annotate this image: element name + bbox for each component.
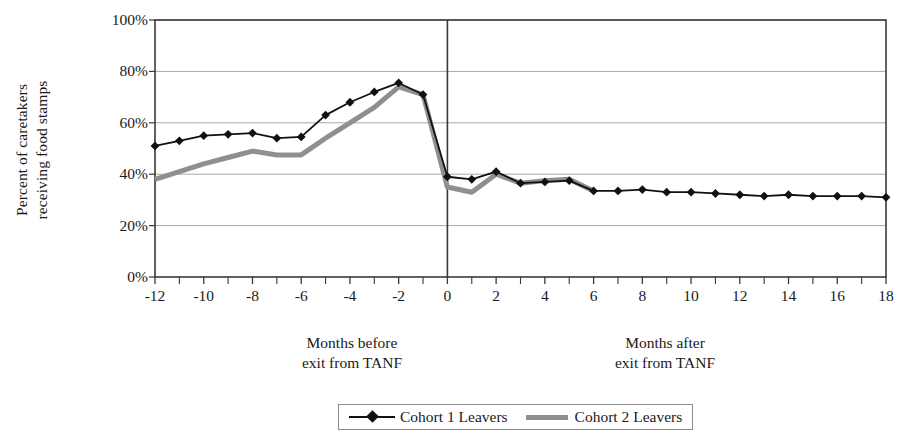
series-marker-cohort-1	[857, 192, 866, 201]
series-marker-cohort-1	[882, 193, 891, 202]
series-marker-cohort-1	[735, 190, 744, 199]
x-axis-tick-label: 0	[427, 288, 467, 304]
series-marker-cohort-1	[248, 129, 257, 138]
x-axis-tick-label: 10	[671, 288, 711, 304]
x-axis-tick-label: 16	[817, 288, 857, 304]
series-marker-cohort-1	[711, 189, 720, 198]
x-axis-tick-label: 6	[574, 288, 614, 304]
caption-after-line-2: exit from TANF	[555, 353, 775, 373]
x-axis-tick-label: 12	[720, 288, 760, 304]
series-marker-cohort-1	[614, 187, 623, 196]
series-marker-cohort-1	[272, 134, 281, 143]
chart-figure: Percent of caretakers receiving food sta…	[0, 0, 908, 444]
legend-label-cohort-1: Cohort 1 Leavers	[400, 409, 508, 425]
x-axis-tick-label: -10	[184, 288, 224, 304]
series-marker-cohort-1	[346, 98, 355, 107]
x-axis-tick-label: -8	[232, 288, 272, 304]
legend-swatch-line-marker-icon	[349, 410, 395, 424]
series-marker-cohort-1	[467, 175, 476, 184]
x-axis-tick-label: 18	[866, 288, 906, 304]
y-axis-tick-label: 100%	[96, 12, 148, 28]
series-marker-cohort-1	[687, 188, 696, 197]
x-axis-tick-label: 4	[525, 288, 565, 304]
caption-after-line-1: Months after	[555, 333, 775, 353]
series-marker-cohort-1	[833, 192, 842, 201]
y-axis-tick-label: 60%	[96, 115, 148, 131]
x-axis-tick-label: -6	[281, 288, 321, 304]
series-marker-cohort-1	[809, 192, 818, 201]
series-marker-cohort-1	[175, 136, 184, 145]
series-marker-cohort-1	[784, 190, 793, 199]
legend-swatch-thick-line-icon	[524, 410, 570, 424]
series-marker-cohort-1	[638, 185, 647, 194]
legend-label-cohort-2: Cohort 2 Leavers	[575, 409, 683, 425]
x-axis-tick-labels: -12-10-8-6-4-2024681012141618	[0, 288, 908, 310]
legend-entry-cohort-2: Cohort 2 Leavers	[524, 409, 683, 425]
series-marker-cohort-1	[151, 142, 160, 151]
x-axis-tick-label: -12	[135, 288, 175, 304]
series-line-cohort-2-leavers	[155, 87, 594, 192]
series-marker-cohort-1	[760, 192, 769, 201]
x-axis-tick-label: 8	[622, 288, 662, 304]
x-axis-tick-label: -2	[379, 288, 419, 304]
y-axis-tick-label: 20%	[96, 218, 148, 234]
y-axis-tick-labels: 0%20%40%60%80%100%	[90, 0, 148, 444]
chart-legend: Cohort 1 Leavers Cohort 2 Leavers	[338, 404, 693, 430]
plot-frame	[155, 20, 886, 277]
x-axis-caption-before: Months before exit from TANF	[242, 333, 462, 373]
series-marker-cohort-1	[199, 131, 208, 140]
legend-entry-cohort-1: Cohort 1 Leavers	[349, 409, 508, 425]
y-axis-tick-label: 40%	[96, 166, 148, 182]
series-marker-cohort-1	[224, 130, 233, 139]
series-marker-cohort-1	[662, 188, 671, 197]
series-marker-cohort-1	[370, 88, 379, 97]
y-axis-tick-label: 80%	[96, 64, 148, 80]
caption-before-line-2: exit from TANF	[242, 353, 462, 373]
x-axis-caption-after: Months after exit from TANF	[555, 333, 775, 373]
y-axis-tick-label: 0%	[96, 269, 148, 285]
caption-before-line-1: Months before	[242, 333, 462, 353]
x-axis-tick-label: 14	[769, 288, 809, 304]
x-axis-tick-label: -4	[330, 288, 370, 304]
x-axis-tick-label: 2	[476, 288, 516, 304]
